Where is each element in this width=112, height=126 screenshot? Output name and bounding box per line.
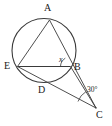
line-ec: [18, 67, 97, 109]
vertex-label-a: A: [44, 3, 51, 13]
vertex-label-b: B: [74, 62, 81, 72]
geometry-figure: A B C D E x 30°: [0, 0, 112, 126]
vertex-label-d: D: [38, 85, 45, 95]
vertex-label-c: C: [96, 110, 103, 120]
angle-label-x: x: [59, 56, 63, 64]
figure-canvas: [0, 0, 112, 126]
angle-label-30-degrees: 30°: [87, 86, 98, 94]
vertex-label-e: E: [4, 61, 10, 71]
angle-arc-at-c: [78, 92, 86, 102]
line-ac: [50, 20, 97, 108]
